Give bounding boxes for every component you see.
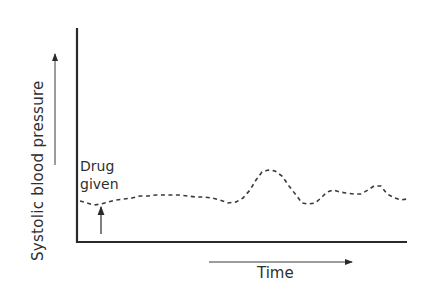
axes	[77, 28, 407, 242]
x-axis-label: Time	[257, 266, 294, 281]
y-axis-label: Systolic blood pressure	[31, 80, 46, 261]
chart-canvas	[0, 0, 430, 294]
drug-given-annotation: Drug given	[80, 157, 140, 193]
